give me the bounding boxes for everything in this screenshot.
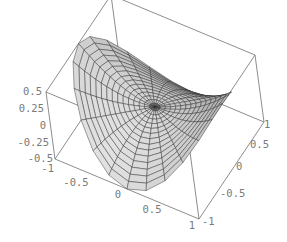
y-axis-ticks: -1 -0.5 0 0.5 1 [202, 118, 270, 227]
x-tick-0.5: 0.5 [143, 203, 162, 215]
x-tick-1: 1 [189, 219, 195, 231]
z-tick-0: 0 [40, 119, 46, 131]
z-tick-0.5: 0.5 [23, 85, 42, 97]
z-tick-0.25: 0.25 [19, 102, 44, 114]
z-tick-neg0.25: -0.25 [17, 136, 49, 148]
x-tick-neg0.5: -0.5 [63, 176, 88, 188]
y-tick-0: 0 [236, 160, 242, 172]
z-axis-ticks: 0.5 0.25 0 -0.25 -0.5 [17, 85, 53, 164]
surface-plot: 0.5 0.25 0 -0.25 -0.5 -1 -0.5 0 0.5 1 -1… [0, 0, 287, 242]
x-tick-0: 0 [115, 188, 121, 200]
y-tick-neg1: -1 [202, 215, 215, 227]
x-tick-neg1: -1 [41, 162, 54, 174]
y-tick-neg0.5: -0.5 [220, 187, 245, 199]
y-tick-0.5: 0.5 [250, 138, 269, 150]
y-tick-1: 1 [264, 118, 270, 130]
saddle-surface [73, 37, 231, 191]
